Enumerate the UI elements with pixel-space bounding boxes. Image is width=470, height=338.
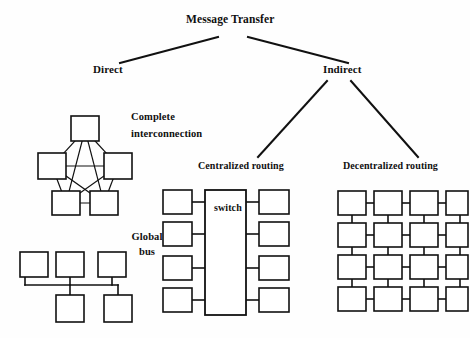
decentralized-links: [352, 203, 460, 299]
global-bus-label: Global bus: [118, 230, 176, 258]
node-mesh-r3c3: [410, 255, 438, 279]
diagram-title: Message Transfer: [186, 12, 274, 26]
node-central-left-1: [163, 190, 192, 214]
edge-indirect-decentralized: [351, 81, 418, 157]
node-central-right-1: [259, 190, 289, 214]
node-mesh-r1c3: [410, 191, 438, 215]
node-mesh-r3c1: [338, 255, 366, 279]
node-central-left-4: [163, 288, 192, 312]
tree-edges-indirect: [258, 81, 418, 157]
node-bus-top-1: [20, 252, 48, 277]
node-mesh-r4c4: [446, 287, 468, 311]
node-bus-top-2: [56, 252, 84, 277]
branch-label-direct: Direct: [93, 63, 123, 77]
node-central-left-3: [163, 256, 192, 280]
node-ci-left: [38, 153, 66, 179]
global-bus-label-line2: bus: [118, 245, 176, 258]
node-bus-bottom-1: [56, 295, 84, 322]
node-ci-bottom-left: [52, 191, 80, 215]
complete-interconnection-label-line2: interconnection: [131, 127, 202, 140]
node-mesh-r2c1: [338, 223, 366, 247]
node-ci-right: [104, 153, 132, 179]
node-mesh-r1c1: [338, 191, 366, 215]
node-central-right-3: [259, 256, 289, 280]
complete-interconnection-label: Complete interconnection: [131, 110, 202, 140]
node-ci-top: [71, 116, 99, 141]
node-mesh-r1c4: [446, 191, 468, 215]
global-bus-links: [25, 277, 118, 295]
node-mesh-r3c4: [446, 255, 468, 279]
edge-indirect-centralized: [258, 81, 327, 157]
tree-edges: [120, 37, 348, 63]
node-mesh-r1c2: [374, 191, 402, 215]
node-central-right-4: [259, 288, 289, 312]
node-mesh-r3c2: [374, 255, 402, 279]
node-mesh-r4c1: [338, 287, 366, 311]
centralized-routing-label: Centralized routing: [198, 160, 284, 173]
node-bus-bottom-2: [104, 295, 132, 322]
decentralized-nodes: [338, 191, 468, 311]
edge-title-direct: [120, 37, 218, 63]
switch-label: switch: [214, 202, 242, 215]
node-mesh-r4c3: [410, 287, 438, 311]
node-mesh-r2c4: [446, 223, 468, 247]
diagram-canvas: Message Transfer Direct Indirect Complet…: [0, 0, 470, 338]
complete-interconnection-label-line1: Complete: [131, 111, 175, 122]
node-mesh-r4c2: [374, 287, 402, 311]
decentralized-routing-label: Decentralized routing: [343, 160, 438, 173]
global-bus-nodes: [20, 252, 132, 322]
node-mesh-r2c2: [374, 223, 402, 247]
edge-title-indirect: [248, 37, 348, 63]
branch-label-indirect: Indirect: [323, 63, 361, 77]
node-central-right-2: [259, 222, 289, 246]
node-mesh-r2c3: [410, 223, 438, 247]
global-bus-label-line1: Global: [132, 231, 163, 242]
node-ci-bottom-right: [90, 191, 118, 215]
